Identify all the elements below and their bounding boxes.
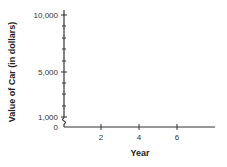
y-axis-title: Value of Car (in dollars) — [7, 22, 17, 123]
axis-break-icon — [63, 118, 66, 124]
y-tick-label-10000: 10,000 — [34, 11, 59, 20]
x-tick-label-6: 6 — [175, 133, 180, 142]
x-tick-label-2: 2 — [99, 133, 104, 142]
y-tick-label-0: 0 — [54, 123, 59, 132]
x-axis-title: Year — [130, 148, 150, 158]
x-tick-label-4: 4 — [137, 133, 142, 142]
y-tick-label-1000: 1,000 — [38, 113, 59, 122]
chart: 10,000 5,000 1,000 0 2 4 6 Year Value of… — [0, 0, 227, 167]
y-tick-label-5000: 5,000 — [38, 68, 59, 77]
